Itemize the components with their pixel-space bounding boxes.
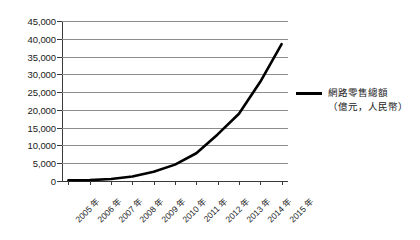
x-axis-tick	[175, 181, 176, 185]
x-axis-tick	[282, 181, 283, 185]
legend-label-line1: 網路零售總額	[328, 86, 408, 100]
x-axis-tick	[111, 181, 112, 185]
legend-label: 網路零售總額 （億元，人民幣）	[328, 86, 408, 114]
x-axis-tick	[154, 181, 155, 185]
series-line-chart	[62, 21, 288, 182]
x-axis-tick	[196, 181, 197, 185]
x-axis-tick	[68, 181, 69, 185]
y-axis-tick-marks	[0, 21, 62, 181]
legend-label-line2: （億元，人民幣）	[328, 100, 408, 114]
x-axis-tick	[90, 181, 91, 185]
x-axis-tick	[260, 181, 261, 185]
x-axis-tick-labels: 2005 年2006 年2007 年2008 年2009 年2010 年2011…	[62, 186, 288, 240]
series-line-online-retail	[68, 44, 281, 180]
x-axis-tick	[218, 181, 219, 185]
x-axis-tick	[239, 181, 240, 185]
chart-screenshot: 05,00010,00015,00020,00025,00030,00035,0…	[0, 0, 420, 240]
chart-legend: 網路零售總額 （億元，人民幣）	[296, 86, 408, 114]
legend-line-swatch	[296, 92, 322, 95]
x-axis-tick	[132, 181, 133, 185]
